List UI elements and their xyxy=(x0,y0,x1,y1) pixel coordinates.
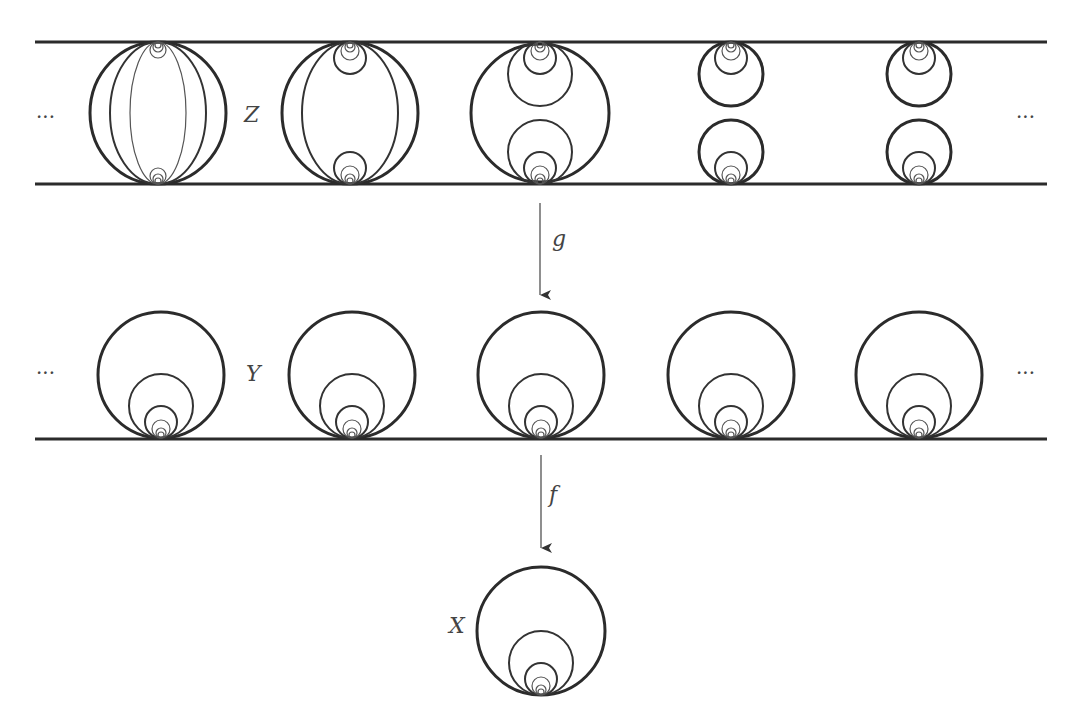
map-g: g xyxy=(540,203,566,295)
y-earring-1 xyxy=(98,312,224,438)
label-y: Y xyxy=(246,361,263,386)
space-x: X xyxy=(447,567,605,695)
ellipsis-left-z: ··· xyxy=(36,105,55,129)
z-fiber-4 xyxy=(699,42,763,184)
z-fiber-5 xyxy=(887,42,951,184)
y-earring-5 xyxy=(856,312,982,438)
label-z: Z xyxy=(243,102,260,127)
ellipsis-left-y: ··· xyxy=(36,361,55,385)
diagram-canvas: Z ··· ··· g xyxy=(0,0,1084,728)
map-f: f xyxy=(541,455,561,548)
label-g: g xyxy=(552,226,566,251)
z-fiber-2 xyxy=(282,42,418,184)
y-earring-3 xyxy=(478,312,604,438)
label-x: X xyxy=(447,613,466,638)
z-fiber-1 xyxy=(90,42,226,184)
ellipsis-right-z: ··· xyxy=(1016,105,1035,129)
x-earring xyxy=(477,567,605,695)
space-y: Y ··· ··· xyxy=(35,312,1047,439)
y-earring-2 xyxy=(289,312,415,438)
z-fiber-3 xyxy=(471,42,609,184)
space-z: Z ··· ··· xyxy=(35,42,1047,184)
ellipsis-right-y: ··· xyxy=(1016,361,1035,385)
label-f: f xyxy=(547,482,561,507)
y-earring-4 xyxy=(668,312,794,438)
